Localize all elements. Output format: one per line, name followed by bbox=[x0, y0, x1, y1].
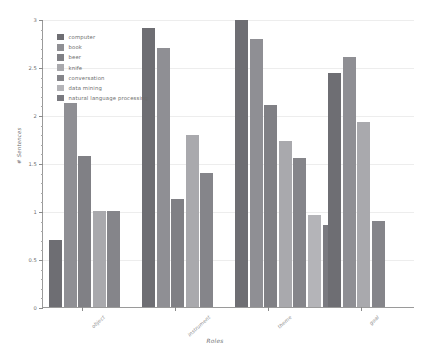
bar bbox=[308, 215, 321, 307]
x-tick-mark bbox=[175, 307, 176, 311]
y-tick-minor bbox=[41, 193, 43, 194]
bar bbox=[279, 141, 292, 307]
bar bbox=[64, 103, 77, 307]
y-tick-minor bbox=[41, 87, 43, 88]
y-tick-minor bbox=[41, 154, 43, 155]
y-tick-label: 3 bbox=[34, 17, 37, 23]
legend-swatch-icon bbox=[57, 75, 64, 82]
bar bbox=[328, 73, 341, 307]
bar bbox=[357, 122, 370, 307]
y-tick-minor bbox=[41, 289, 43, 290]
legend-label: beer bbox=[69, 54, 82, 60]
gridline bbox=[43, 116, 414, 117]
legend-swatch-icon bbox=[57, 34, 64, 41]
legend-label: computer bbox=[69, 34, 96, 40]
y-tick-mark bbox=[39, 20, 43, 21]
y-tick-minor bbox=[41, 49, 43, 50]
legend-label: data mining bbox=[69, 85, 102, 91]
legend-swatch-icon bbox=[57, 44, 64, 51]
legend-item[interactable]: data mining bbox=[57, 83, 148, 93]
y-tick-label: 1.5 bbox=[28, 161, 37, 167]
legend-item[interactable]: computer bbox=[57, 32, 148, 42]
y-tick-minor bbox=[41, 106, 43, 107]
y-tick-label: 0 bbox=[34, 305, 37, 311]
x-tick-mark bbox=[268, 307, 269, 311]
chart-legend: computerbookbeerknifeconversationdata mi… bbox=[55, 30, 150, 105]
legend-label: knife bbox=[69, 65, 83, 71]
bar bbox=[171, 199, 184, 307]
y-tick-label: 2.5 bbox=[28, 65, 37, 71]
y-tick-label: 2 bbox=[34, 113, 37, 119]
bar bbox=[250, 39, 263, 307]
y-tick-minor bbox=[41, 241, 43, 242]
y-tick-minor bbox=[41, 78, 43, 79]
bar bbox=[93, 211, 106, 307]
bar bbox=[186, 135, 199, 307]
y-tick-mark bbox=[39, 308, 43, 309]
y-tick-minor bbox=[41, 250, 43, 251]
y-tick-label: 1 bbox=[34, 209, 37, 215]
y-tick-minor bbox=[41, 39, 43, 40]
x-tick-mark bbox=[82, 307, 83, 311]
legend-label: conversation bbox=[69, 75, 105, 81]
legend-item[interactable]: knife bbox=[57, 63, 148, 73]
bar bbox=[200, 173, 213, 307]
y-tick-minor bbox=[41, 231, 43, 232]
y-tick-minor bbox=[41, 30, 43, 31]
y-tick-label: 0.5 bbox=[28, 257, 37, 263]
legend-item[interactable]: book bbox=[57, 42, 148, 52]
y-tick-minor bbox=[41, 270, 43, 271]
bar bbox=[293, 158, 306, 307]
y-tick-mark bbox=[39, 260, 43, 261]
gridline bbox=[43, 20, 414, 21]
plot-area: 00.511.522.53 objectinstrumentthemegoal … bbox=[42, 20, 414, 308]
x-tick-label: instrument bbox=[186, 314, 211, 337]
legend-item[interactable]: conversation bbox=[57, 73, 148, 83]
bar bbox=[235, 20, 248, 307]
y-tick-minor bbox=[41, 279, 43, 280]
y-tick-minor bbox=[41, 174, 43, 175]
legend-swatch-icon bbox=[57, 64, 64, 71]
bar bbox=[49, 240, 62, 307]
y-tick-minor bbox=[41, 202, 43, 203]
y-tick-minor bbox=[41, 222, 43, 223]
legend-item[interactable]: beer bbox=[57, 52, 148, 62]
x-tick-label: theme bbox=[276, 314, 292, 330]
y-tick-mark bbox=[39, 164, 43, 165]
chart-figure: 00.511.522.53 objectinstrumentthemegoal … bbox=[0, 0, 430, 362]
bar bbox=[343, 57, 356, 307]
legend-swatch-icon bbox=[57, 85, 64, 92]
y-tick-minor bbox=[41, 58, 43, 59]
y-tick-minor bbox=[41, 126, 43, 127]
bar bbox=[372, 221, 385, 307]
y-tick-mark bbox=[39, 68, 43, 69]
y-tick-minor bbox=[41, 97, 43, 98]
y-tick-minor bbox=[41, 135, 43, 136]
bar bbox=[157, 48, 170, 307]
y-tick-mark bbox=[39, 212, 43, 213]
x-tick-label: object bbox=[90, 314, 106, 329]
legend-label: book bbox=[69, 44, 83, 50]
bar bbox=[107, 211, 120, 307]
legend-swatch-icon bbox=[57, 54, 64, 61]
y-tick-mark bbox=[39, 116, 43, 117]
x-tick-mark bbox=[361, 307, 362, 311]
y-tick-minor bbox=[41, 145, 43, 146]
y-tick-minor bbox=[41, 183, 43, 184]
y-tick-minor bbox=[41, 298, 43, 299]
bar bbox=[78, 156, 91, 307]
legend-item[interactable]: natural language processing bbox=[57, 93, 148, 103]
bar bbox=[264, 105, 277, 307]
legend-swatch-icon bbox=[57, 95, 64, 102]
legend-label: natural language processing bbox=[69, 95, 149, 101]
x-axis-title: Roles bbox=[0, 338, 430, 344]
y-axis-title: # Sentences bbox=[16, 127, 22, 164]
x-tick-label: goal bbox=[368, 314, 380, 326]
